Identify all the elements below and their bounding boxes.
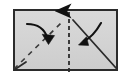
fold-diagram-canvas <box>0 0 130 79</box>
fold-diagram-figure: Paper folding step diagram <box>0 0 130 79</box>
paper-sheet-face <box>14 10 117 70</box>
